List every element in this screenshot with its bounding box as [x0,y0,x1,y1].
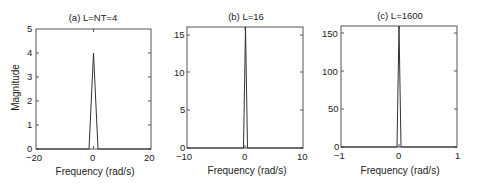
xlabel-c: Frequency (rad/s) [361,165,440,176]
ytick-c-50: 50 [328,104,339,114]
panel-title-c: (c) L=1600 [377,10,423,21]
xtick-c-min: −1 [334,151,345,161]
chart-panel-c: (c) L=1600 150 100 50 0 −1 0 1 Frequency… [0,0,477,186]
ytick-c-150: 150 [322,29,338,39]
ytick-c-100: 100 [322,67,338,77]
xtick-c-zero: 0 [396,151,401,161]
plot-area-c [0,0,477,186]
xtick-c-max: 1 [455,151,460,161]
spectrum-line-c [341,26,457,147]
